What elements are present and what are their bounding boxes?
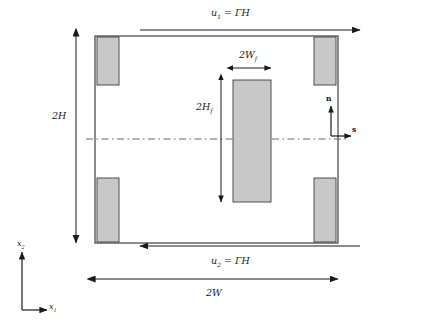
- x1-axis-label: x1: [49, 303, 57, 313]
- inclusion-width-label: 2Wf: [239, 50, 257, 63]
- tangent-vector-label: s: [352, 126, 356, 134]
- top-velocity-label: u1 = ΓH: [211, 8, 250, 21]
- central-inclusion: [233, 80, 271, 202]
- corner-block-bottom-left: [97, 178, 119, 242]
- diagram-canvas: [0, 0, 422, 326]
- domain-width-label: 2W: [206, 288, 222, 298]
- global-axes: [22, 252, 47, 310]
- inclusion-height-label: 2Hf: [196, 102, 213, 115]
- bottom-velocity-label: u2 = ΓH: [211, 256, 250, 269]
- domain-height-label: 2H: [52, 111, 66, 121]
- corner-block-top-right: [314, 37, 336, 85]
- corner-block-bottom-right: [314, 178, 336, 242]
- normal-vector-label: n: [326, 95, 331, 103]
- domain-boundary: [95, 36, 338, 243]
- x2-axis-label: x2: [17, 240, 25, 250]
- corner-block-top-left: [97, 37, 119, 85]
